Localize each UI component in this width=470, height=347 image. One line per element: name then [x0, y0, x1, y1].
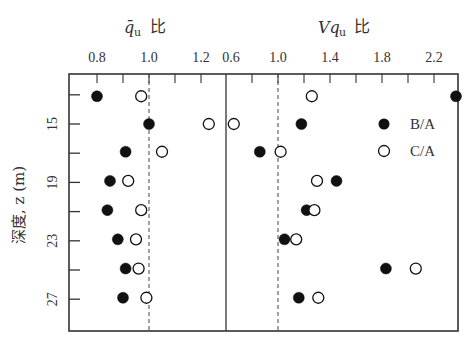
y-tick-labels: 15192327: [45, 117, 60, 306]
point-ba: [279, 234, 290, 245]
point-ba: [118, 292, 129, 303]
y-tick-label: 19: [45, 175, 60, 189]
legend-filled-circle-icon: [379, 119, 390, 130]
y-tick-label: 23: [45, 234, 60, 248]
point-ca: [291, 234, 302, 245]
point-ba: [120, 263, 131, 274]
point-ca: [157, 146, 168, 157]
point-ba: [92, 91, 103, 102]
point-ca: [275, 146, 286, 157]
right-title-suffix: 比: [354, 17, 370, 36]
x-tick-label-left: 1.2: [192, 50, 210, 65]
left-title-suffix: 比: [150, 17, 166, 36]
x-tick-label-right: 1.0: [269, 50, 287, 65]
y-axis-label: 深度, z (m): [10, 166, 28, 244]
right-title-main: Vq: [318, 18, 340, 37]
x-tick-label-right: 0.6: [222, 50, 240, 65]
legend-open-circle-icon: [379, 146, 390, 157]
point-ba: [144, 119, 155, 130]
y-tick-label: 27: [45, 292, 60, 306]
point-ca: [131, 234, 142, 245]
point-ba: [296, 119, 307, 130]
point-ca: [313, 292, 324, 303]
point-ba: [105, 175, 116, 186]
right-title-sub: u: [339, 26, 346, 39]
x-tick-label-right: 2.2: [425, 50, 443, 65]
point-ba: [331, 175, 342, 186]
point-ca: [203, 119, 214, 130]
point-ba: [380, 263, 391, 274]
x-tick-labels: 0.81.01.20.61.01.41.82.2: [88, 50, 443, 65]
point-ca: [228, 119, 239, 130]
point-ba: [451, 91, 462, 102]
legend-label-ca: C/A: [410, 143, 435, 159]
left-title-main: q̄: [124, 18, 134, 37]
left-title-sub: u: [134, 26, 141, 39]
point-ca: [141, 292, 152, 303]
x-tick-label-left: 0.8: [88, 50, 106, 65]
point-ba: [254, 146, 265, 157]
point-ca: [306, 91, 317, 102]
depth-ratio-chart: q̄ u 比 Vq u 比 0.81.01.20.61.01.41.82.2 深…: [0, 0, 470, 347]
point-ca: [309, 205, 320, 216]
point-ba: [102, 205, 113, 216]
x-tick-label-left: 1.0: [140, 50, 158, 65]
point-ba: [120, 146, 131, 157]
y-tick-label: 15: [45, 117, 60, 131]
left-panel-title: q̄ u 比: [124, 17, 166, 39]
right-panel-title: Vq u 比: [318, 17, 370, 39]
point-ca: [136, 205, 147, 216]
point-ca: [136, 91, 147, 102]
data-points: [92, 91, 462, 303]
legend-label-ba: B/A: [410, 116, 435, 132]
point-ba: [293, 292, 304, 303]
plot-frame: [69, 74, 458, 331]
point-ba: [112, 234, 123, 245]
legend: B/A C/A: [379, 116, 436, 159]
point-ca: [123, 175, 134, 186]
point-ca: [133, 263, 144, 274]
point-ca: [410, 263, 421, 274]
x-tick-label-right: 1.4: [321, 50, 339, 65]
x-tick-label-right: 1.8: [373, 50, 391, 65]
point-ca: [312, 175, 323, 186]
